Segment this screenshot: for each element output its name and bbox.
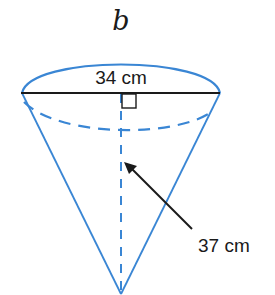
right-angle-marker — [122, 94, 136, 108]
cone-diagram: b 34 cm 37 cm — [0, 0, 275, 295]
cone-base-hidden-arc — [24, 102, 214, 130]
cone-right-side — [121, 93, 220, 294]
arrow-line — [130, 167, 192, 229]
part-label: b — [112, 5, 129, 36]
height-label: 37 cm — [198, 235, 250, 256]
diameter-label: 34 cm — [95, 67, 147, 88]
cone-left-side — [22, 93, 121, 294]
